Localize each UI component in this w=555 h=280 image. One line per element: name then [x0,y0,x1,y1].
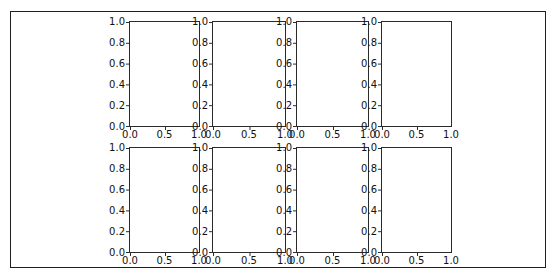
y-tick-label: 0.6 [266,58,292,70]
y-tick-label: 0.2 [351,100,377,112]
x-tick-label: 0.5 [239,129,259,140]
y-tick-label: 1.0 [351,142,377,154]
y-tick-label: 1.0 [99,142,125,154]
y-tick-label: 0.4 [351,79,377,91]
y-axis-tick-marks [378,22,381,127]
figure-canvas: 1.0 0.8 0.6 0.4 0.2 0.0 0.0 0.5 1.0 1.0 … [0,0,555,280]
y-tick-label: 0.6 [351,58,377,70]
y-tick-label: 1.0 [182,142,208,154]
x-tick-label: 0.0 [372,255,392,266]
x-tick-label: 0.0 [203,255,223,266]
y-tick-label: 0.8 [182,37,208,49]
y-tick-label: 0.6 [182,184,208,196]
y-tick-label: 1.0 [351,16,377,28]
y-tick-label: 0.2 [266,226,292,238]
x-tick-label: 0.0 [287,255,307,266]
y-axis-tick-marks [209,148,212,253]
x-tick-label: 0.5 [323,255,343,266]
x-tick-label: 1.0 [441,255,461,266]
y-tick-label: 0.8 [351,163,377,175]
x-tick-label: 0.0 [203,129,223,140]
x-tick-label: 0.5 [323,129,343,140]
y-tick-label: 1.0 [182,16,208,28]
x-tick-label: 0.5 [407,255,427,266]
y-tick-label: 1.0 [266,142,292,154]
y-tick-label: 0.4 [182,205,208,217]
x-tick-label: 1.0 [441,129,461,140]
y-tick-label: 0.4 [266,79,292,91]
subplot-r2c4: 1.0 0.8 0.6 0.4 0.2 0.0 0.0 0.5 1.0 [381,147,452,253]
y-tick-label: 0.8 [99,163,125,175]
y-tick-label: 0.8 [351,37,377,49]
y-tick-label: 0.6 [266,184,292,196]
y-axis-tick-marks [126,22,129,127]
y-tick-label: 1.0 [266,16,292,28]
y-tick-label: 0.2 [266,100,292,112]
x-tick-label: 0.0 [120,255,140,266]
y-tick-label: 1.0 [99,16,125,28]
x-tick-label: 0.5 [155,129,175,140]
x-tick-label: 0.5 [155,255,175,266]
y-axis-tick-marks [293,22,296,127]
y-tick-label: 0.4 [182,79,208,91]
y-tick-label: 0.6 [351,184,377,196]
y-axis-tick-marks [378,148,381,253]
x-tick-label: 0.0 [372,129,392,140]
subplot-r1c4: 1.0 0.8 0.6 0.4 0.2 0.0 0.0 0.5 1.0 [381,21,452,127]
y-tick-label: 0.4 [99,79,125,91]
x-tick-label: 0.0 [120,129,140,140]
x-tick-label: 0.5 [407,129,427,140]
y-tick-label: 0.8 [266,163,292,175]
y-tick-label: 0.6 [99,184,125,196]
y-tick-label: 0.2 [351,226,377,238]
y-tick-label: 0.6 [99,58,125,70]
y-tick-label: 0.2 [99,100,125,112]
y-axis-tick-marks [209,22,212,127]
y-tick-label: 0.8 [182,163,208,175]
y-tick-label: 0.4 [351,205,377,217]
y-tick-label: 0.2 [182,226,208,238]
y-tick-label: 0.4 [99,205,125,217]
x-tick-label: 0.0 [287,129,307,140]
y-axis-tick-marks [126,148,129,253]
x-tick-label: 0.5 [239,255,259,266]
y-tick-label: 0.8 [99,37,125,49]
y-tick-label: 0.8 [266,37,292,49]
y-tick-label: 0.2 [182,100,208,112]
y-tick-label: 0.4 [266,205,292,217]
y-tick-label: 0.6 [182,58,208,70]
y-axis-tick-marks [293,148,296,253]
y-tick-label: 0.2 [99,226,125,238]
